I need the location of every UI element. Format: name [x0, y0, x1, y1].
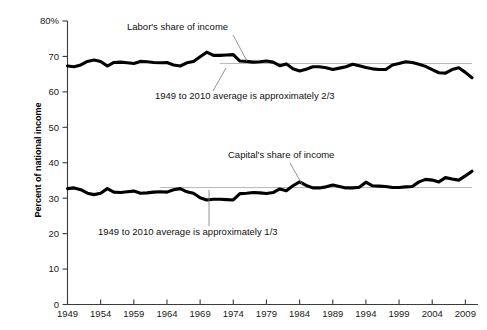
y-tick-label: 40 [48, 157, 59, 168]
y-axis-ticks: 01020304050607080% [40, 15, 68, 310]
labor-average-label: 1949 to 2010 average is approximately 2/… [155, 90, 335, 101]
x-tick-label: 1954 [90, 308, 111, 319]
y-tick-label: 20 [48, 228, 59, 239]
x-axis-ticks: 1949195419591964196919741979198419891994… [57, 300, 476, 320]
x-tick-label: 1974 [223, 308, 244, 319]
x-tick-label: 2004 [422, 308, 443, 319]
annotation-labels: Labor's share of income1949 to 2010 aver… [98, 21, 335, 237]
y-tick-label: 50 [48, 122, 59, 133]
series-line-labor-s-share-of-income [68, 52, 473, 78]
x-tick-label: 1989 [322, 308, 343, 319]
y-tick-label: 80% [40, 15, 60, 26]
capital-average-label: 1949 to 2010 average is approximately 1/… [98, 226, 278, 237]
y-tick-label: 60 [48, 86, 59, 97]
y-tick-label: 70 [48, 51, 59, 62]
x-tick-label: 1964 [156, 308, 177, 319]
x-tick-label: 1994 [355, 308, 376, 319]
x-tick-label: 2009 [455, 308, 476, 319]
y-tick-label: 30 [48, 193, 59, 204]
y-axis-title-text: Percent of national income [33, 102, 43, 217]
x-tick-label: 1979 [256, 308, 277, 319]
x-tick-label: 1969 [190, 308, 211, 319]
series-line-capital-s-share-of-income [68, 171, 473, 200]
x-tick-label: 1999 [388, 308, 409, 319]
y-tick-label: 10 [48, 263, 59, 274]
labor-series-label: Labor's share of income [127, 21, 228, 32]
data-series-layer [68, 52, 473, 200]
capital-series-label: Capital's share of income [228, 149, 334, 160]
labor-average-label-leader [213, 68, 226, 91]
x-tick-label: 1949 [57, 308, 78, 319]
x-tick-label: 1984 [289, 308, 310, 319]
average-reference-lines [160, 64, 472, 188]
x-tick-label: 1959 [123, 308, 144, 319]
y-axis-title: Percent of national income [33, 102, 43, 217]
chart-figure: Percent of national income 0102030405060… [0, 0, 487, 330]
income-share-line-chart: Percent of national income 0102030405060… [0, 0, 487, 330]
